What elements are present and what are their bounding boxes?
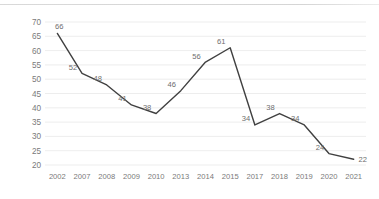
x-axis-tick-label: 2019: [296, 172, 313, 181]
y-axis-tick-label: 70: [32, 18, 42, 27]
y-axis-tick-label: 35: [32, 118, 42, 127]
x-axis-tick-label: 2009: [123, 172, 140, 181]
x-axis-tick-label: 2010: [148, 172, 165, 181]
data-point-label: 34: [291, 114, 299, 123]
data-point-label: 46: [168, 80, 176, 89]
y-axis-tick-label: 50: [32, 75, 42, 84]
data-point-label: 56: [192, 52, 200, 61]
x-axis-tick-label: 2021: [345, 172, 362, 181]
x-axis-tick-label: 2008: [98, 172, 115, 181]
data-point-label: 41: [118, 94, 126, 103]
chart-plot-area: 7065605550454035302520 20022007200820092…: [0, 0, 379, 199]
x-axis-tick-label: 2013: [172, 172, 189, 181]
x-axis-tick-label: 2020: [321, 172, 338, 181]
y-axis-tick-label: 45: [32, 90, 42, 99]
data-point-label: 24: [316, 143, 324, 152]
x-axis-tick-label: 2014: [197, 172, 214, 181]
x-axis-tick-label: 2007: [74, 172, 91, 181]
line-chart-figure: 7065605550454035302520 20022007200820092…: [0, 0, 379, 199]
data-series-line: [57, 33, 353, 159]
y-axis-tick-label: 20: [32, 161, 42, 170]
y-axis-tick-label: 55: [32, 61, 42, 70]
data-point-label: 66: [55, 22, 63, 31]
y-axis-tick-label: 25: [32, 147, 42, 156]
x-axis-tick-label: 2017: [246, 172, 263, 181]
x-axis-tick-label: 2015: [222, 172, 239, 181]
data-point-label: 52: [69, 63, 77, 72]
y-axis-tick-label: 65: [32, 32, 42, 41]
data-point-label: 38: [266, 103, 274, 112]
data-point-label: 38: [143, 103, 151, 112]
y-axis-tick-label: 60: [32, 47, 42, 56]
y-axis-tick-labels: 7065605550454035302520: [32, 18, 42, 170]
x-axis-tick-label: 2018: [271, 172, 288, 181]
data-point-label: 48: [94, 74, 102, 83]
data-point-label: 61: [217, 37, 225, 46]
x-axis-tick-labels: 2002200720082009201020132014201520172018…: [49, 172, 362, 181]
y-axis-tick-label: 30: [32, 132, 42, 141]
data-point-label: 34: [242, 114, 250, 123]
x-axis-tick-label: 2002: [49, 172, 66, 181]
series-polyline: [57, 33, 353, 159]
y-axis-tick-label: 40: [32, 104, 42, 113]
data-point-label: 22: [358, 155, 366, 164]
